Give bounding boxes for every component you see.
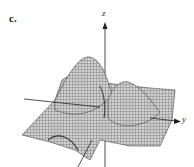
- surface-plot: [0, 0, 194, 167]
- y-axis-arrow-icon: [174, 119, 181, 125]
- z-axis-arrow-icon: [103, 22, 108, 29]
